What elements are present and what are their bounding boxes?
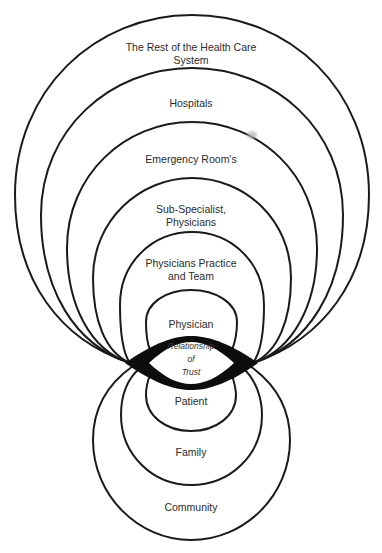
label-family: Family <box>0 446 382 459</box>
label-physicians-practice: Physicians Practice and Team <box>0 257 382 283</box>
label-relationship-of-trust: Relationship of Trust <box>0 340 382 379</box>
label-community: Community <box>0 501 382 514</box>
label-patient: Patient <box>0 395 382 408</box>
label-emergency-rooms: Emergency Room's <box>0 153 382 166</box>
label-physician: Physician <box>0 318 382 331</box>
label-hospitals: Hospitals <box>0 97 382 110</box>
label-sub-specialist: Sub-Specialist, Physicians <box>0 203 382 229</box>
scan-smudge <box>247 131 257 139</box>
label-health-care-system: The Rest of the Health Care System <box>0 41 382 67</box>
